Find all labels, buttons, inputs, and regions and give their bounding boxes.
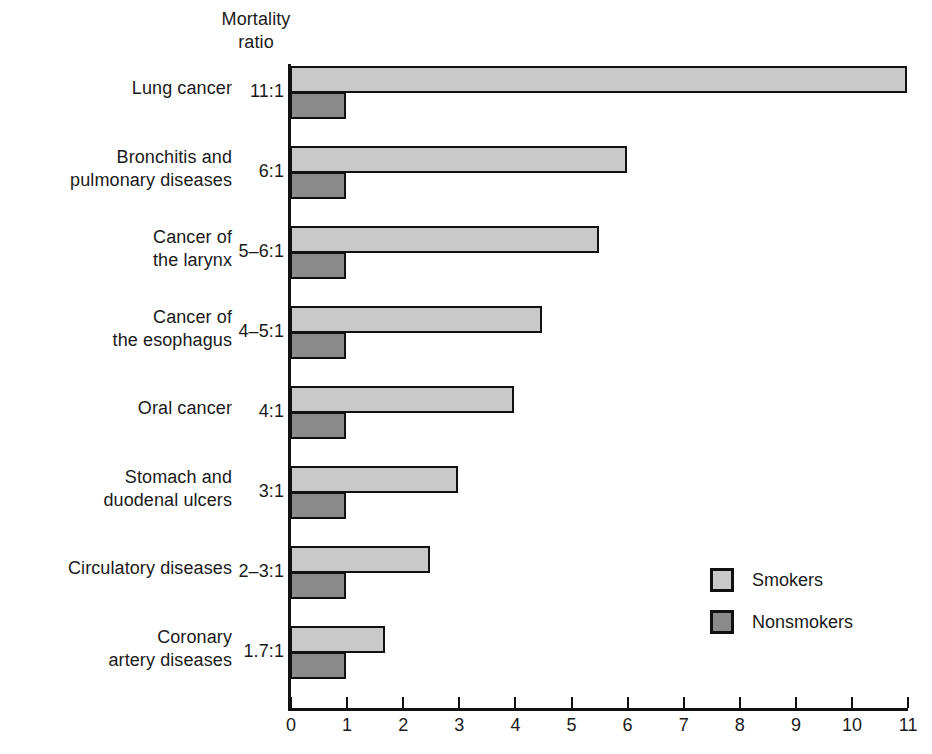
bar-nonsmokers (290, 172, 346, 199)
mortality-ratio-bar-chart: Mortality ratio Lung cancer11:1Bronchiti… (0, 0, 932, 754)
x-axis-tick-label: 1 (327, 714, 367, 736)
bar-nonsmokers (290, 652, 346, 679)
chart-row: Cancer ofthe esophagus4–5:1 (0, 306, 932, 386)
category-label: Cancer ofthe larynx (0, 226, 232, 272)
category-label-line1: Coronary (157, 627, 232, 647)
x-axis-tick-label: 7 (664, 714, 704, 736)
mortality-ratio-value: 11:1 (234, 80, 284, 103)
x-axis-tick-label: 2 (383, 714, 423, 736)
category-label-line2: duodenal ulcers (0, 489, 232, 512)
bar-smokers (290, 146, 627, 173)
mortality-ratio-value: 2–3:1 (234, 560, 284, 583)
x-axis-tick-label: 6 (608, 714, 648, 736)
bar-nonsmokers (290, 412, 346, 439)
category-label: Oral cancer (0, 397, 232, 420)
bar-smokers (290, 626, 385, 653)
category-label: Coronaryartery diseases (0, 626, 232, 672)
bar-smokers (290, 466, 458, 493)
bar-nonsmokers (290, 492, 346, 519)
bar-smokers (290, 546, 430, 573)
legend-label: Nonsmokers (752, 608, 853, 636)
category-label: Lung cancer (0, 77, 232, 100)
legend-swatch-smokers (710, 568, 734, 592)
x-axis-line (288, 708, 908, 711)
category-label-line2: the esophagus (0, 329, 232, 352)
mortality-ratio-value: 4:1 (234, 400, 284, 423)
x-axis-tick-label: 11 (888, 714, 928, 736)
chart-row: Lung cancer11:1 (0, 66, 932, 146)
category-label-line1: Circulatory diseases (68, 558, 232, 578)
bar-nonsmokers (290, 572, 346, 599)
chart-row: Bronchitis andpulmonary diseases6:1 (0, 146, 932, 226)
category-label-line2: the larynx (0, 249, 232, 272)
mortality-ratio-value: 3:1 (234, 480, 284, 503)
category-label-line1: Cancer of (153, 307, 232, 327)
category-label: Cancer ofthe esophagus (0, 306, 232, 352)
category-label: Bronchitis andpulmonary diseases (0, 146, 232, 192)
category-label-line1: Cancer of (153, 227, 232, 247)
mortality-ratio-value: 6:1 (234, 160, 284, 183)
x-axis-tick-label: 10 (832, 714, 872, 736)
chart-row: Coronaryartery diseases1.7:1 (0, 626, 932, 706)
category-label-line1: Bronchitis and (117, 147, 232, 167)
bar-smokers (290, 306, 542, 333)
x-axis-tick-label: 5 (552, 714, 592, 736)
mortality-ratio-value: 1.7:1 (234, 640, 284, 663)
category-label-line1: Lung cancer (132, 78, 232, 98)
category-label: Stomach andduodenal ulcers (0, 466, 232, 512)
chart-row: Cancer ofthe larynx5–6:1 (0, 226, 932, 306)
x-axis-tick-label: 8 (720, 714, 760, 736)
bar-smokers (290, 66, 907, 93)
x-axis-tick-label: 3 (439, 714, 479, 736)
bar-smokers (290, 226, 599, 253)
category-label-line1: Stomach and (125, 467, 232, 487)
x-axis-tick-label: 4 (495, 714, 535, 736)
bar-nonsmokers (290, 332, 346, 359)
chart-row: Stomach andduodenal ulcers3:1 (0, 466, 932, 546)
bar-nonsmokers (290, 252, 346, 279)
bar-smokers (290, 386, 514, 413)
chart-row: Oral cancer4:1 (0, 386, 932, 466)
category-label-line2: artery diseases (0, 649, 232, 672)
bar-nonsmokers (290, 92, 346, 119)
category-label-line2: pulmonary diseases (0, 169, 232, 192)
mortality-ratio-header-line1: Mortality (222, 9, 291, 29)
category-label: Circulatory diseases (0, 557, 232, 580)
mortality-ratio-header-line2: ratio (238, 32, 274, 52)
mortality-ratio-header: Mortality ratio (186, 8, 326, 54)
mortality-ratio-value: 5–6:1 (234, 240, 284, 263)
mortality-ratio-value: 4–5:1 (234, 320, 284, 343)
legend-swatch-nonsmokers (710, 610, 734, 634)
x-axis-tick-label: 0 (271, 714, 311, 736)
legend-label: Smokers (752, 566, 823, 594)
category-label-line1: Oral cancer (138, 398, 232, 418)
x-axis-tick-label: 9 (776, 714, 816, 736)
